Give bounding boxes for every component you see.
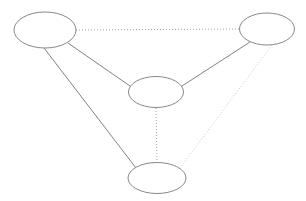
edge-top-left-to-bottom[interactable] xyxy=(44,48,136,168)
node-center-shape[interactable] xyxy=(129,77,184,108)
node-bottom-shape[interactable] xyxy=(128,163,186,194)
node-layer xyxy=(14,12,295,194)
node-graph-svg xyxy=(0,0,306,201)
node-top-right[interactable] xyxy=(240,13,295,45)
edge-top-right-to-center[interactable] xyxy=(182,42,250,86)
edge-top-right-to-bottom[interactable] xyxy=(180,45,272,168)
edge-top-left-to-center[interactable] xyxy=(68,43,130,86)
diagram-canvas xyxy=(0,0,306,201)
node-top-left[interactable] xyxy=(14,12,76,48)
edge-center-to-bottom[interactable] xyxy=(156,108,157,163)
node-top-left-shape[interactable] xyxy=(14,12,76,48)
edge-top-left-to-top-right[interactable] xyxy=(76,29,240,30)
node-top-right-shape[interactable] xyxy=(240,13,295,45)
node-center[interactable] xyxy=(129,77,184,108)
node-bottom[interactable] xyxy=(128,163,186,194)
